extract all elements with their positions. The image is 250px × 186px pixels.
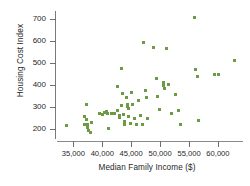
data-point — [142, 41, 145, 44]
y-tick-label: 500 — [0, 58, 46, 67]
data-point — [170, 112, 173, 115]
data-point — [165, 47, 168, 50]
data-point — [217, 73, 220, 76]
y-tick-label: 600 — [0, 36, 46, 45]
data-point — [85, 103, 88, 106]
data-point — [122, 113, 125, 116]
data-point — [152, 46, 155, 49]
x-tick-mark — [73, 141, 74, 147]
x-axis-title: Median Family Income ($) — [52, 163, 242, 172]
data-point — [167, 83, 170, 86]
data-point — [127, 115, 130, 118]
data-point — [213, 73, 216, 76]
data-point — [174, 93, 177, 96]
data-point — [144, 89, 147, 92]
data-point — [90, 121, 93, 124]
data-point — [118, 116, 121, 119]
data-point — [135, 123, 138, 126]
data-point — [129, 122, 132, 125]
data-point — [123, 120, 126, 123]
data-point — [113, 112, 116, 115]
scatter-plot-figure: Housing Cost Index 200300400500600700 35… — [0, 0, 250, 186]
data-point — [193, 16, 196, 19]
y-tick-label: 300 — [0, 102, 46, 111]
data-point — [127, 107, 130, 110]
data-point — [197, 119, 200, 122]
y-tick-label: 400 — [0, 80, 46, 89]
x-tick-mark — [160, 141, 161, 147]
y-tick-label: 700 — [0, 14, 46, 23]
x-tick-mark — [189, 141, 190, 147]
data-point — [158, 108, 161, 111]
x-tick-mark — [102, 141, 103, 147]
data-point — [125, 96, 128, 99]
data-point — [65, 124, 68, 127]
x-tick-label: 60,000 — [198, 149, 238, 158]
x-tick-mark — [218, 141, 219, 147]
y-tick-label: 200 — [0, 124, 46, 133]
data-point — [130, 91, 133, 94]
data-point — [163, 87, 166, 90]
data-point — [116, 109, 119, 112]
data-point — [139, 114, 142, 117]
data-point — [121, 92, 124, 95]
data-point — [107, 127, 110, 130]
data-point — [196, 75, 199, 78]
x-axis-line — [57, 141, 243, 142]
data-point — [120, 67, 123, 70]
data-point — [155, 77, 158, 80]
data-point — [146, 117, 149, 120]
data-point — [85, 118, 88, 121]
data-point — [137, 99, 140, 102]
data-point — [106, 112, 109, 115]
data-point — [141, 123, 144, 126]
data-point — [123, 123, 126, 126]
data-point — [89, 131, 92, 134]
data-point — [233, 59, 236, 62]
data-point — [116, 85, 119, 88]
data-point — [120, 104, 123, 107]
x-tick-mark — [131, 141, 132, 147]
data-point — [179, 123, 182, 126]
data-point — [194, 68, 197, 71]
data-point — [145, 96, 148, 99]
data-point — [133, 117, 136, 120]
data-point — [131, 103, 134, 106]
data-point — [177, 109, 180, 112]
plot-area — [56, 12, 244, 138]
data-point — [162, 81, 165, 84]
data-point — [156, 95, 159, 98]
